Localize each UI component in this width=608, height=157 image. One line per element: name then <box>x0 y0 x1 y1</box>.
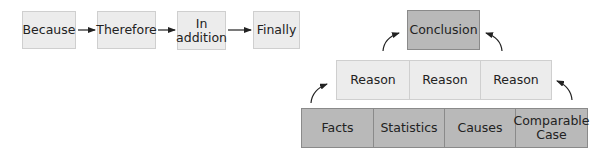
arrow-icon <box>78 30 572 103</box>
arrows-layer <box>0 0 608 157</box>
